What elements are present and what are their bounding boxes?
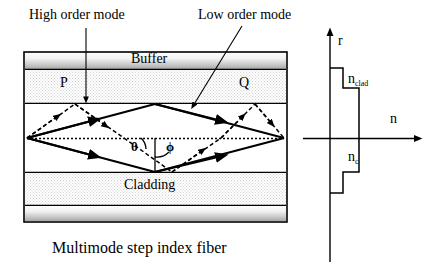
label-point-q: Q <box>239 76 249 90</box>
label-buffer: Buffer <box>131 52 167 66</box>
label-high-order-mode: High order mode <box>29 8 125 22</box>
label-low-order-mode: Low order mode <box>198 8 291 22</box>
n-c-subscript: c <box>355 157 359 166</box>
figure-canvas: High order mode Low order mode Buffer P … <box>0 0 429 271</box>
label-point-p: P <box>60 76 68 90</box>
label-n-clad: nclad <box>348 72 368 86</box>
label-cladding: Cladding <box>124 178 175 192</box>
label-n-c: nc <box>348 150 359 164</box>
axis-label-n: n <box>390 112 397 126</box>
n-c-base: n <box>348 149 355 164</box>
n-clad-subscript: clad <box>355 79 368 88</box>
figure-caption: Multimode step index fiber <box>52 240 227 256</box>
fiber-diagram-svg <box>0 0 429 271</box>
label-angle-phi: ϕ <box>166 140 174 153</box>
n-clad-base: n <box>348 71 355 86</box>
layer-buffer-bottom <box>25 206 286 221</box>
label-angle-theta: θ <box>131 140 138 153</box>
index-profile-axes <box>303 32 418 262</box>
axis-label-r: r <box>338 34 343 48</box>
